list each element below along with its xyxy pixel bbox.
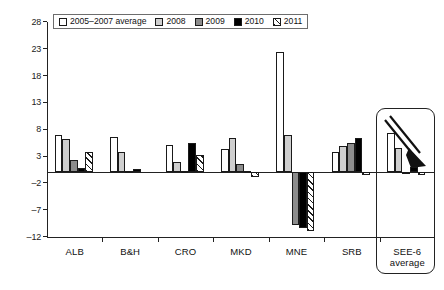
- x-label-line1: MNE: [269, 246, 324, 257]
- group-separator: [213, 237, 214, 242]
- legend-swatch-2009-icon: [195, 18, 203, 26]
- y-tick-label: 13: [31, 96, 47, 108]
- annotation-arrow-icon: [376, 108, 435, 274]
- y-tick-8: 8: [0, 123, 47, 135]
- bar-alb-2009: [70, 160, 78, 172]
- bar-chart: 2823181383–2–7–12 ALBB&HCROMKDMNESRBSEE-…: [0, 0, 444, 290]
- group-separator: [102, 237, 103, 242]
- bar-mkd-2009: [236, 164, 244, 172]
- legend-item-2011: 2011: [273, 17, 302, 26]
- y-tick-3: 3: [0, 150, 47, 162]
- y-tick-neg12: –12: [0, 231, 47, 243]
- bar-mkd-2008: [229, 138, 237, 172]
- bar-b-h-2005: [110, 137, 118, 172]
- x-label-line1: CRO: [158, 246, 213, 257]
- legend-label-2010: 2010: [245, 17, 264, 26]
- y-tick-neg2: –2: [0, 177, 47, 189]
- y-tick-label: –7: [31, 204, 47, 216]
- y-tick-18: 18: [0, 70, 47, 82]
- y-tick-label: 3: [36, 150, 47, 162]
- bar-alb-2005: [55, 135, 63, 172]
- legend-swatch-2005-2007-icon: [59, 18, 67, 26]
- legend-swatch-2010-icon: [234, 18, 242, 26]
- bar-mne-2008: [284, 135, 292, 173]
- y-tick-label: 18: [31, 70, 47, 82]
- group-separator: [158, 237, 159, 242]
- bar-mne-2009: [292, 172, 300, 225]
- legend-swatch-2011-icon: [273, 18, 281, 26]
- bar-alb-2008: [62, 139, 70, 172]
- x-label-mne: MNE: [269, 246, 324, 257]
- y-tick-label: 23: [31, 43, 47, 55]
- x-label-line1: B&H: [102, 246, 157, 257]
- y-tick-label: 8: [36, 123, 47, 135]
- bar-mne-2010: [299, 172, 307, 228]
- bar-mne-2011: [307, 172, 315, 231]
- legend-label-2008: 2008: [166, 17, 185, 26]
- x-label-line1: SRB: [324, 246, 379, 257]
- legend-item-2010: 2010: [234, 17, 264, 26]
- bar-cro-2011: [196, 155, 204, 172]
- bar-cro-2009: [181, 171, 189, 173]
- x-label-cro: CRO: [158, 246, 213, 257]
- x-label-alb: ALB: [47, 246, 102, 257]
- x-label-line1: MKD: [213, 246, 268, 257]
- x-label-srb: SRB: [324, 246, 379, 257]
- bar-cro-2005: [166, 145, 174, 172]
- bar-b-h-2008: [118, 152, 126, 172]
- legend-label-2009: 2009: [206, 17, 225, 26]
- bar-cro-2010: [188, 143, 196, 172]
- bar-cro-2008: [173, 162, 181, 172]
- bar-mkd-2005: [221, 149, 229, 172]
- bar-srb-2009: [347, 143, 355, 172]
- bar-mkd-2010: [244, 171, 252, 173]
- group-separator: [269, 237, 270, 242]
- y-tick-label: –12: [27, 231, 47, 243]
- legend-item-2009: 2009: [195, 17, 225, 26]
- bar-srb-2005: [332, 152, 340, 172]
- bar-srb-2008: [339, 146, 347, 172]
- bar-alb-2011: [85, 152, 93, 172]
- bar-srb-2011: [362, 172, 370, 175]
- legend-item-2008: 2008: [155, 17, 185, 26]
- bar-srb-2010: [355, 138, 363, 172]
- legend-label-2005-2007: 2005–2007 average: [70, 17, 146, 26]
- bar-mkd-2011: [251, 172, 259, 176]
- legend-item-2005-2007: 2005–2007 average: [59, 17, 146, 26]
- legend-label-2011: 2011: [284, 17, 302, 26]
- bar-b-h-2010: [133, 169, 141, 172]
- legend-swatch-2008-icon: [155, 18, 163, 26]
- x-label-mkd: MKD: [213, 246, 268, 257]
- y-tick-neg7: –7: [0, 204, 47, 216]
- bar-mne-2005: [276, 52, 284, 172]
- x-label-line1: ALB: [47, 246, 102, 257]
- bar-b-h-2009: [125, 171, 133, 173]
- y-tick-13: 13: [0, 96, 47, 108]
- y-tick-28: 28: [0, 16, 47, 28]
- x-label-b-h: B&H: [102, 246, 157, 257]
- y-tick-label: 28: [31, 16, 47, 28]
- legend: 2005–2007 average 2008 2009 2010 2011: [53, 14, 308, 29]
- y-tick-23: 23: [0, 43, 47, 55]
- y-tick-label: –2: [31, 177, 47, 189]
- group-separator: [324, 237, 325, 242]
- bar-alb-2010: [78, 168, 86, 172]
